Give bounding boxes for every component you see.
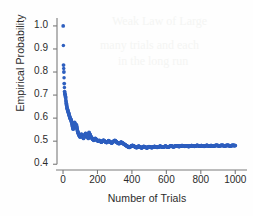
- data-point: [62, 70, 66, 74]
- data-point: [62, 63, 66, 67]
- data-point: [62, 67, 65, 70]
- data-point: [62, 76, 65, 79]
- data-series-0: [61, 24, 237, 150]
- data-point: [63, 86, 66, 89]
- plot-area: [0, 0, 253, 216]
- chart-figure: Weak Law of Large many trials and each i…: [0, 0, 253, 216]
- data-point: [61, 24, 65, 28]
- data-point: [62, 82, 66, 86]
- data-point: [233, 144, 237, 148]
- data-point: [62, 44, 65, 47]
